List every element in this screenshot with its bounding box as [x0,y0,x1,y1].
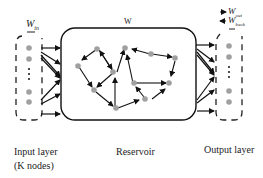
output-weights-arrows [196,45,214,111]
input-layer-box [16,36,42,120]
reservoir-label: Reservoir [116,146,155,158]
input-weights-arrows [41,48,60,114]
input-nodes-label: (K nodes) [14,160,54,172]
output-layer-label: Output layer [204,144,254,156]
w-back-label: Wback [228,14,245,31]
reservoir-box [61,28,196,120]
w-in-label: Win [26,18,39,34]
output-layer-box [216,34,242,120]
w-label: W [124,16,132,28]
legend-arrows [220,12,226,21]
input-layer-label: Input layer [14,146,58,158]
